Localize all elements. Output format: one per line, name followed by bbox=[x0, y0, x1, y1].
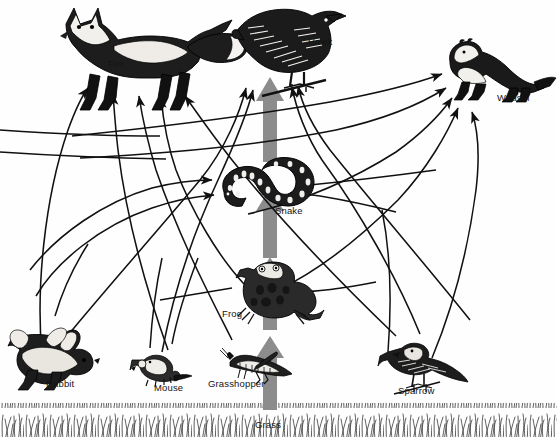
predation-links bbox=[30, 74, 478, 358]
label-weasel: Weasel bbox=[497, 92, 529, 103]
energy-arrow-snake-to-hawk bbox=[256, 77, 284, 162]
label-frog: Frog bbox=[222, 308, 242, 319]
link-mouse-to-snake bbox=[36, 195, 214, 296]
link-sparrow-to-weasel bbox=[432, 112, 478, 358]
strand-mouse-up-2 bbox=[172, 258, 198, 344]
label-hawk: Hawk bbox=[308, 36, 332, 47]
strand-sparrow-tail bbox=[382, 210, 390, 352]
link-grasshopper-to-snake bbox=[30, 180, 212, 270]
label-sparrow: Sparrow bbox=[398, 385, 434, 396]
link-mouse-to-fox bbox=[113, 94, 168, 350]
strand-frog-left bbox=[160, 288, 232, 300]
link-frog-to-hawk bbox=[298, 86, 470, 320]
label-grasshopper: Grasshopper bbox=[208, 378, 265, 389]
link-rabbit-to-weasel bbox=[72, 74, 442, 136]
label-fox: Fox bbox=[108, 58, 124, 69]
link-rabbit-to-fox bbox=[40, 88, 88, 355]
label-rabbit: Rabbit bbox=[46, 378, 74, 389]
label-mouse: Mouse bbox=[154, 382, 183, 393]
food-web-connections bbox=[0, 0, 557, 437]
organism-hawk bbox=[232, 9, 346, 96]
label-snake: Snake bbox=[275, 205, 303, 216]
grass-band bbox=[0, 399, 557, 437]
strand-snake-right bbox=[300, 170, 436, 186]
organism-fox bbox=[60, 8, 247, 110]
label-grass: Grass bbox=[255, 419, 281, 430]
crossing-strands bbox=[0, 130, 436, 352]
food-web-diagram: Fox Hawk Weasel Snake Frog Rabbit Mouse … bbox=[0, 0, 557, 437]
